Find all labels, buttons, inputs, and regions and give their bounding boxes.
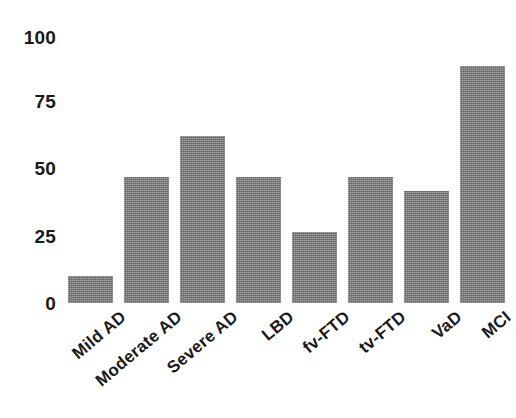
y-tick-label-100: 100 xyxy=(24,28,56,47)
x-tick-label-vad: VaD xyxy=(429,308,465,342)
x-tick-label-fv-ftd: fv-FTD xyxy=(300,308,353,356)
x-tick-label-mci: MCI xyxy=(479,308,514,341)
plot-area xyxy=(68,30,488,303)
y-tick-label-25: 25 xyxy=(34,227,56,246)
y-tick-label-50: 50 xyxy=(34,159,56,178)
bar-mild-ad[interactable] xyxy=(68,276,113,303)
x-tick-label-tv-ftd: tv-FTD xyxy=(356,308,409,356)
y-axis: 100 75 50 25 0 xyxy=(0,0,62,418)
y-tick-label-0: 0 xyxy=(45,294,56,313)
y-tick-label-75: 75 xyxy=(34,92,56,111)
bar-series xyxy=(68,30,488,303)
bar-mci[interactable] xyxy=(460,66,505,304)
x-tick-label-lbd: LBD xyxy=(259,308,297,344)
